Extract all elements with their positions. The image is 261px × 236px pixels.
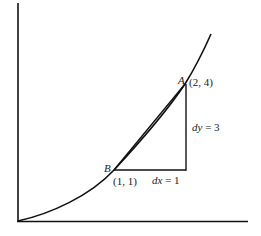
parabola-curve xyxy=(18,34,211,221)
point-a-label: A xyxy=(177,74,185,86)
dy-label: dy = 3 xyxy=(192,121,220,133)
point-a-coords: (2, 4) xyxy=(189,76,213,89)
diagram-canvas: A (2, 4) B (1, 1) dx = 1 dy = 3 xyxy=(0,0,261,236)
point-b-coords: (1, 1) xyxy=(113,175,137,188)
secant-chord xyxy=(114,84,185,170)
dx-label: dx = 1 xyxy=(152,174,180,186)
point-b-label: B xyxy=(104,162,111,174)
